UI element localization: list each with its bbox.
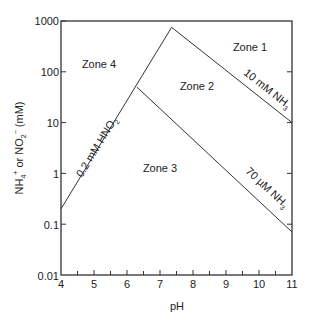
y-tick-label: 0.1 [44, 219, 59, 231]
x-tick-label: 4 [58, 278, 64, 290]
x-tick-label: 9 [223, 278, 229, 290]
y-axis-label: NH4+ or NO2− (mM) [12, 101, 27, 194]
nh3-70um-line-label: 70 µM NH3 [242, 165, 291, 212]
y-tick-label: 10 [47, 117, 59, 129]
x-axis-ticks [78, 270, 276, 275]
zone-2-label: Zone 2 [180, 80, 214, 92]
zone-3-label: Zone 3 [143, 162, 177, 174]
x-axis-label: pH [170, 300, 184, 312]
y-tick-label: 0.01 [38, 270, 59, 282]
zone-1-label: Zone 1 [233, 41, 267, 53]
nh3-10mm-line-label: 10 mM NH3 [241, 66, 294, 112]
hno2-boundary-line [61, 27, 172, 209]
x-tick-label: 10 [253, 278, 265, 290]
x-tick-label: 8 [190, 278, 196, 290]
hno2-line-label: 0.2 mM HNO2 [73, 115, 120, 181]
y-tick-label: 100 [41, 66, 59, 78]
nh3-70um-boundary-line [137, 87, 292, 232]
zone-4-label: Zone 4 [82, 58, 116, 70]
x-tick-label: 5 [91, 278, 97, 290]
x-tick-label: 7 [157, 278, 163, 290]
phase-diagram-chart: 1000 100 10 1 0.1 0.01 4 5 6 7 8 9 10 11… [0, 0, 309, 322]
x-tick-label: 11 [286, 278, 297, 290]
y-tick-label: 1000 [35, 15, 59, 27]
x-tick-label: 6 [124, 278, 130, 290]
y-tick-label: 1 [53, 168, 59, 180]
nh3-10mm-boundary-line [172, 27, 292, 122]
